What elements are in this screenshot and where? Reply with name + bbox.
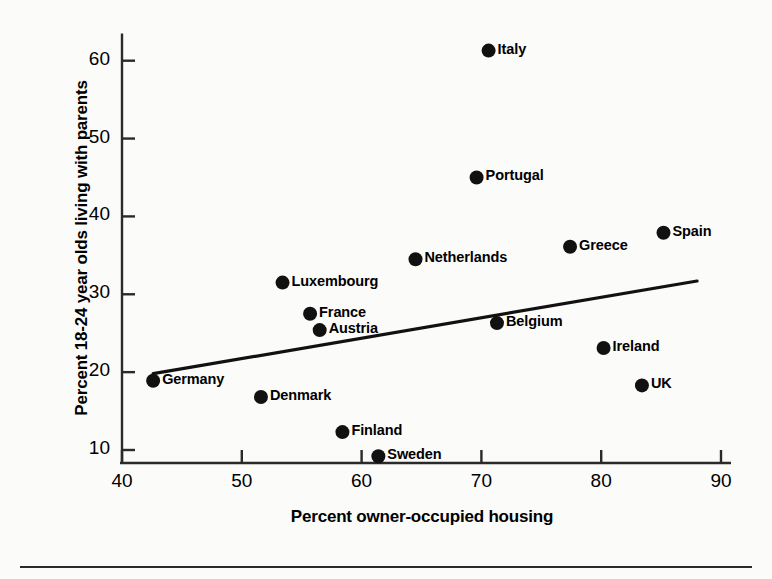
- data-point-marker: [276, 276, 290, 290]
- footer-rule: [20, 566, 752, 568]
- x-tick-label: 40: [102, 470, 142, 492]
- data-point-label: Spain: [672, 223, 711, 239]
- data-point-marker: [313, 323, 327, 337]
- data-point-marker: [656, 226, 670, 240]
- data-point-label: Ireland: [613, 338, 660, 354]
- x-tick-label: 80: [581, 470, 621, 492]
- data-point-label: Denmark: [270, 387, 331, 403]
- x-tick-label: 50: [222, 470, 262, 492]
- data-point-label: Germany: [162, 371, 224, 387]
- x-tick-label: 90: [701, 470, 741, 492]
- data-point-marker: [146, 374, 160, 388]
- data-point-marker: [597, 341, 611, 355]
- data-point-marker: [490, 316, 504, 330]
- axes: [120, 33, 731, 463]
- data-point-marker: [482, 44, 496, 58]
- scatter-plot-figure: 102030405060405060708090 ItalyPortugalSp…: [0, 0, 772, 579]
- plot-canvas: [0, 0, 772, 579]
- data-point-label: Austria: [329, 320, 378, 336]
- data-point-marker: [635, 378, 649, 392]
- data-point-label: Sweden: [387, 446, 441, 462]
- x-tick-label: 60: [342, 470, 382, 492]
- data-point-label: Greece: [579, 237, 628, 253]
- trend-line: [153, 281, 697, 374]
- data-point-label: UK: [651, 375, 672, 391]
- data-point-marker: [303, 307, 317, 321]
- data-point-label: Netherlands: [425, 249, 508, 265]
- data-points: [146, 44, 670, 464]
- data-point-marker: [254, 390, 268, 404]
- data-point-label: Portugal: [486, 167, 544, 183]
- data-point-label: France: [319, 304, 366, 320]
- data-point-label: Luxembourg: [292, 273, 379, 289]
- x-tick-label: 70: [461, 470, 501, 492]
- data-point-marker: [371, 449, 385, 463]
- data-point-marker: [409, 252, 423, 266]
- y-axis-title: Percent 18-24 year olds living with pare…: [72, 38, 92, 458]
- data-point-marker: [563, 240, 577, 254]
- data-point-marker: [335, 425, 349, 439]
- data-point-marker: [470, 170, 484, 184]
- data-point-label: Italy: [498, 41, 527, 57]
- data-point-label: Belgium: [506, 313, 563, 329]
- x-axis-title: Percent owner-occupied housing: [122, 507, 722, 527]
- data-point-label: Finland: [351, 422, 402, 438]
